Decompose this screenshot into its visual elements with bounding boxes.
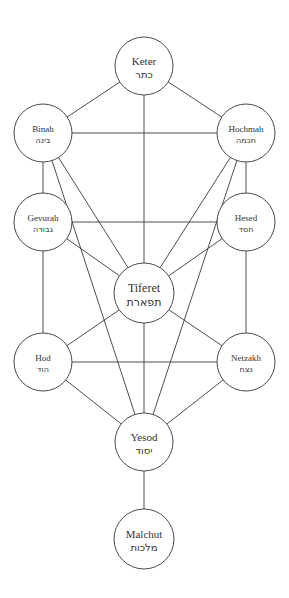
node-binah: Binahבינה [14, 104, 72, 162]
node-label: Hochmah [229, 124, 264, 134]
node-hebrew-label: גבורה [33, 225, 54, 234]
node-label: Keter [132, 55, 157, 67]
node-label: Yesod [130, 431, 158, 443]
node-hebrew-label: נצח [239, 365, 252, 374]
node-label: Gevurah [28, 213, 59, 223]
sefirot-nodes: KeterכתרBinahבינהHochmahחכמהGevurahגבורה… [14, 37, 275, 569]
node-hebrew-label: חכמה [236, 136, 256, 145]
node-hebrew-label: כתר [135, 69, 153, 80]
node-label: Hesed [235, 213, 258, 223]
node-label: Malchut [126, 528, 163, 540]
node-keter: Keterכתר [115, 37, 173, 95]
node-hebrew-label: הוד [37, 365, 49, 374]
node-label: Netzakh [231, 353, 261, 363]
node-gevurah: Gevurahגבורה [14, 193, 72, 251]
node-hochmah: Hochmahחכמה [217, 104, 275, 162]
node-tiferet: Tiferetתפארת [114, 263, 174, 323]
node-hebrew-label: חסד [239, 225, 254, 234]
node-label: Tiferet [128, 281, 161, 295]
node-label: Hod [35, 353, 51, 363]
node-label: Binah [32, 124, 54, 134]
node-yesod: Yesodיסוד [115, 413, 173, 471]
node-hesed: Hesedחסד [217, 193, 275, 251]
node-netzakh: Netzakhנצח [217, 333, 275, 391]
node-hebrew-label: בינה [36, 136, 51, 145]
node-hebrew-label: מלכות [130, 542, 157, 553]
tree-of-life-diagram: KeterכתרBinahבינהHochmahחכמהGevurahגבורה… [0, 0, 289, 598]
node-hebrew-label: יסוד [136, 445, 153, 456]
node-hebrew-label: תפארת [127, 296, 162, 309]
node-hod: Hodהוד [14, 333, 72, 391]
node-malchut: Malchutמלכות [114, 509, 174, 569]
